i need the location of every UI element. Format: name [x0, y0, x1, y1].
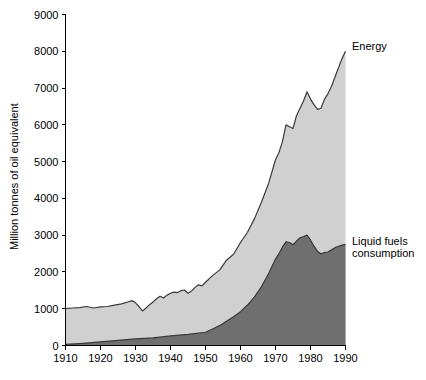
series-label-liquid-fuels-line2: consumption: [352, 247, 414, 259]
x-tick-label: 1950: [193, 352, 217, 364]
x-tick-label: 1940: [158, 352, 182, 364]
x-tick-label: 1970: [263, 352, 287, 364]
y-tick-label: 9000: [34, 9, 58, 21]
x-tick-label: 1910: [53, 352, 77, 364]
chart-container: 0100020003000400050006000700080009000 19…: [0, 0, 426, 380]
x-tick-label: 1930: [123, 352, 147, 364]
energy-consumption-area-chart: 0100020003000400050006000700080009000 19…: [0, 0, 426, 380]
y-tick-label: 6000: [34, 119, 58, 131]
y-tick-label: 1000: [34, 303, 58, 315]
y-tick-label: 3000: [34, 229, 58, 241]
y-tick-label: 0: [52, 340, 58, 352]
x-tick-label: 1920: [88, 352, 112, 364]
y-tick-label: 5000: [34, 156, 58, 168]
y-tick-label: 4000: [34, 192, 58, 204]
series-label-liquid-fuels-line1: Liquid fuels: [352, 235, 408, 247]
x-tick-label: 1960: [228, 352, 252, 364]
y-axis-title: Million tonnes of oil equivalent: [8, 103, 20, 250]
y-tick-label: 7000: [34, 82, 58, 94]
y-tick-label: 2000: [34, 266, 58, 278]
x-tick-label: 1990: [333, 352, 357, 364]
y-tick-label: 8000: [34, 45, 58, 57]
series-label-energy: Energy: [352, 40, 387, 52]
x-tick-label: 1980: [298, 352, 322, 364]
